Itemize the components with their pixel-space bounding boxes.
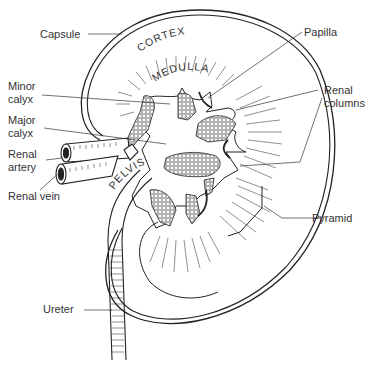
- renal-artery-label: Renal artery: [8, 148, 37, 174]
- renal-vein-label: Renal vein: [8, 190, 60, 203]
- kidney-diagram: CORTEX MEDULLA PELVIS Capsule Minor caly…: [0, 0, 377, 371]
- medulla-label: MEDULLA: [150, 60, 211, 84]
- ureter-label: Ureter: [43, 303, 74, 316]
- major-calyx-label: Major calyx: [8, 114, 36, 140]
- papilla-label: Papilla: [304, 26, 337, 39]
- cortex-label: CORTEX: [135, 24, 187, 53]
- minor-calyx-label: Minor calyx: [8, 80, 36, 106]
- lower-calyx-outline: [140, 222, 218, 298]
- renal-columns-label: Renal columns: [324, 84, 365, 110]
- capsule-label: Capsule: [40, 28, 80, 41]
- pyramid-label: Pyramid: [312, 212, 352, 225]
